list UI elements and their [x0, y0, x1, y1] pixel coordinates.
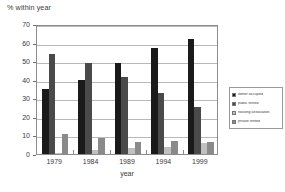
bar [207, 142, 214, 154]
bar [194, 107, 201, 154]
bar [85, 63, 92, 154]
bar [92, 150, 99, 154]
bar [188, 39, 195, 154]
legend-item[interactable]: housing association [232, 108, 280, 117]
bar-chart: % within year 010203040506070 1979198419… [0, 0, 285, 192]
legend-item-label: public rented [238, 102, 259, 106]
bar [78, 80, 85, 154]
y-tick-label: 70 [8, 21, 30, 28]
bar [158, 93, 165, 154]
legend-item-label: private rented [238, 120, 260, 124]
x-tick-mark [73, 150, 74, 154]
bar [201, 143, 208, 154]
chart-title: % within year [7, 3, 51, 12]
bar [62, 134, 69, 154]
gridline [37, 26, 217, 27]
chart-legend: owner occupiedpublic rentedhousing assoc… [229, 87, 283, 129]
y-tick-label: 0 [8, 151, 30, 158]
y-tick-label: 40 [8, 77, 30, 84]
bar [55, 153, 62, 154]
legend-item-label: owner occupied [238, 93, 263, 97]
bar [49, 54, 56, 154]
bar [164, 147, 171, 154]
legend-item[interactable]: private rented [232, 117, 280, 126]
legend-swatch-icon [232, 120, 236, 124]
y-tick-label: 20 [8, 114, 30, 121]
y-tick-mark [33, 155, 36, 156]
x-tick-label: 1989 [109, 158, 145, 165]
x-tick-mark [183, 150, 184, 154]
y-tick-label: 30 [8, 95, 30, 102]
plot-area [36, 25, 218, 155]
bar [42, 89, 49, 154]
legend-swatch-icon [232, 111, 236, 115]
bar [128, 148, 135, 154]
x-tick-label: 1979 [36, 158, 72, 165]
bar [98, 138, 105, 154]
bar [115, 63, 122, 154]
bar [171, 141, 178, 154]
x-tick-mark [110, 150, 111, 154]
legend-item[interactable]: public rented [232, 99, 280, 108]
x-tick-label: 1999 [182, 158, 218, 165]
legend-swatch-icon [232, 93, 236, 97]
legend-swatch-icon [232, 102, 236, 106]
bar [135, 142, 142, 154]
y-tick-label: 60 [8, 40, 30, 47]
x-tick-label: 1994 [145, 158, 181, 165]
legend-item[interactable]: owner occupied [232, 90, 280, 99]
bar [151, 48, 158, 154]
y-tick-label: 10 [8, 132, 30, 139]
bar [121, 77, 128, 154]
x-tick-mark [146, 150, 147, 154]
x-axis-title: year [36, 170, 218, 177]
legend-item-label: housing association [238, 111, 270, 115]
y-tick-label: 50 [8, 58, 30, 65]
x-tick-label: 1984 [72, 158, 108, 165]
